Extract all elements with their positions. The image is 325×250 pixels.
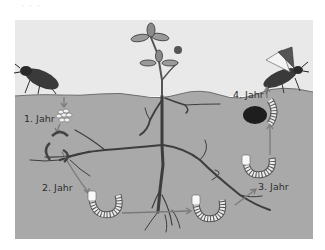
stage-label-year3: 3. Jahr [258, 181, 289, 192]
stage-label-year2: 2. Jahr [42, 182, 73, 193]
stage-label-year4: 4. Jahr [233, 89, 264, 100]
diagram-canvas [0, 0, 325, 250]
partial-caption: · · · [22, 2, 42, 9]
life-cycle-diagram: · · · [0, 0, 325, 250]
stage-label-year1: 1. Jahr [24, 113, 55, 124]
